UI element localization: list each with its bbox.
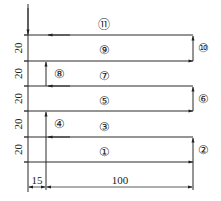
row-spacing-labels: 2020202020 xyxy=(12,42,28,162)
label-step-9: ⑨ xyxy=(99,43,110,57)
dim-100-arrow-right xyxy=(188,186,193,189)
row-spacing-label: 20 xyxy=(12,42,24,54)
label-step-2: ② xyxy=(198,143,209,157)
row-spacing-label: 20 xyxy=(12,144,24,156)
label-step-3: ③ xyxy=(99,120,110,134)
label-step-11: ⑪ xyxy=(98,18,110,32)
label-step-7: ⑦ xyxy=(99,69,110,83)
dim-100-arrow-left xyxy=(46,186,51,189)
label-step-10: ⑩ xyxy=(198,41,209,55)
label-step-6: ⑥ xyxy=(198,92,209,106)
dim-100-label: 100 xyxy=(112,174,129,186)
label-step-8: ⑧ xyxy=(54,67,65,81)
row-spacing-label: 20 xyxy=(12,118,24,130)
label-step-1: ① xyxy=(99,145,110,159)
label-step-4: ④ xyxy=(54,117,65,131)
row-spacing-label: 20 xyxy=(12,68,24,80)
dim-15-label: 15 xyxy=(32,174,44,186)
row-spacing-label: 20 xyxy=(12,93,24,105)
toolpath-diagram: ⑪ ⑨ ⑦ ⑤ ③ ① ⑩ ⑥ ② ⑧ ④ 2020202020 15 100 xyxy=(0,0,221,201)
label-step-5: ⑤ xyxy=(99,94,110,108)
